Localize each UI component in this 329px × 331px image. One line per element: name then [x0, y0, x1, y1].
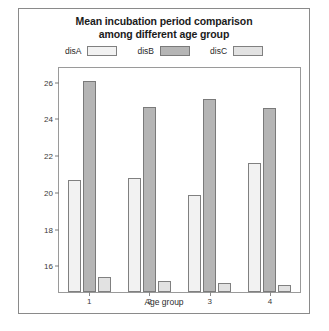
legend-swatch-disB	[160, 46, 190, 56]
legend-item-disC: disC	[210, 46, 263, 56]
legend-swatch-disC	[233, 46, 263, 56]
bars-layer	[59, 68, 300, 292]
legend-label-disA: disA	[65, 46, 82, 56]
y-axis-tick: 24	[44, 115, 59, 124]
y-axis-tick-label: 24	[44, 115, 53, 124]
bar-disC-group-4	[278, 285, 291, 292]
x-axis-tick-mark	[270, 292, 271, 296]
chart-title: Mean incubation period comparison among …	[19, 15, 309, 41]
y-axis-tick-label: 18	[44, 225, 53, 234]
y-axis-tick-label: 16	[44, 262, 53, 271]
y-axis-tick: 20	[44, 188, 59, 197]
bar-disB-group-2	[143, 107, 156, 292]
y-axis-tick: 16	[44, 262, 59, 271]
bar-disC-group-3	[218, 283, 231, 292]
chart-figure-frame: Mean incubation period comparison among …	[18, 8, 310, 314]
y-axis-tick-label: 26	[44, 78, 53, 87]
y-axis-tick: 22	[44, 152, 59, 161]
y-axis-tick: 26	[44, 78, 59, 87]
chart-title-line-2: among different age group	[19, 28, 309, 41]
bar-disB-group-3	[203, 99, 216, 292]
legend-item-disB: disB	[137, 46, 190, 56]
plot-area: 161820222426 1234	[58, 67, 301, 293]
y-axis-tick-label: 22	[44, 152, 53, 161]
bar-disA-group-1	[68, 180, 81, 292]
bar-disA-group-4	[248, 163, 261, 292]
y-axis-tick-label: 20	[44, 188, 53, 197]
chart-legend: disA disB disC	[19, 46, 309, 56]
legend-swatch-disA	[87, 46, 117, 56]
legend-label-disC: disC	[210, 46, 227, 56]
x-axis-tick-mark	[149, 292, 150, 296]
bar-disC-group-2	[158, 281, 171, 292]
bar-disB-group-4	[263, 108, 276, 292]
y-axis-tick: 18	[44, 225, 59, 234]
legend-label-disB: disB	[137, 46, 154, 56]
bar-disB-group-1	[83, 81, 96, 292]
chart-title-line-1: Mean incubation period comparison	[19, 15, 309, 28]
x-axis-tick-mark	[89, 292, 90, 296]
x-axis-label: Age group	[19, 297, 309, 307]
x-axis-tick-mark	[210, 292, 211, 296]
bar-disA-group-2	[128, 178, 141, 292]
legend-item-disA: disA	[65, 46, 118, 56]
bar-disA-group-3	[188, 195, 201, 292]
bar-disC-group-1	[98, 277, 111, 292]
